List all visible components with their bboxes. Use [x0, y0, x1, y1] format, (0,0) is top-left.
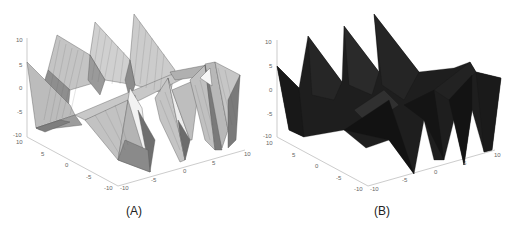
y-tick-labels-a: 10 5 0 -5 -10 — [16, 139, 113, 191]
svg-text:10: 10 — [16, 139, 23, 145]
svg-text:5: 5 — [41, 151, 45, 157]
svg-text:-5: -5 — [267, 111, 273, 117]
z-tick-labels-a: 10 5 0 -5 -10 — [13, 37, 23, 138]
svg-text:0: 0 — [269, 87, 273, 93]
svg-text:-5: -5 — [336, 175, 342, 181]
svg-text:-5: -5 — [17, 109, 23, 115]
svg-text:-5: -5 — [151, 177, 157, 183]
surface-plot-a: 10 5 0 -5 -10 10 5 0 -5 -10 -10 -5 0 5 1… — [0, 0, 254, 228]
svg-text:10: 10 — [494, 152, 501, 158]
panel-a: 10 5 0 -5 -10 10 5 0 -5 -10 -10 -5 0 5 1… — [0, 0, 254, 228]
panel-b: 10 5 0 -5 -10 10 5 0 -5 -10 -10 -5 0 5 1… — [254, 0, 508, 228]
surface-b — [277, 14, 501, 174]
svg-text:10: 10 — [266, 140, 273, 146]
svg-text:0: 0 — [434, 169, 438, 175]
svg-text:10: 10 — [16, 37, 23, 43]
svg-text:-10: -10 — [354, 186, 363, 192]
svg-text:5: 5 — [19, 62, 23, 68]
svg-text:0: 0 — [19, 85, 23, 91]
y-tick-labels-b: 10 5 0 -5 -10 — [266, 140, 363, 192]
svg-text:5: 5 — [212, 160, 216, 166]
svg-text:-10: -10 — [13, 132, 22, 138]
svg-text:-5: -5 — [402, 177, 408, 183]
svg-text:0: 0 — [183, 168, 187, 174]
svg-text:5: 5 — [269, 63, 273, 69]
caption-a: (A) — [114, 204, 154, 218]
z-tick-labels-b: 10 5 0 -5 -10 — [263, 39, 273, 139]
svg-text:5: 5 — [292, 152, 296, 158]
svg-text:10: 10 — [244, 151, 251, 157]
svg-text:-10: -10 — [104, 185, 113, 191]
caption-b: (B) — [362, 204, 402, 218]
svg-text:-10: -10 — [370, 186, 379, 192]
surface-plot-b: 10 5 0 -5 -10 10 5 0 -5 -10 -10 -5 0 5 1… — [254, 0, 508, 228]
svg-text:0: 0 — [315, 163, 319, 169]
svg-text:10: 10 — [265, 39, 272, 45]
svg-text:-10: -10 — [263, 133, 272, 139]
surface-a — [27, 14, 240, 172]
svg-text:-5: -5 — [86, 174, 92, 180]
svg-text:-10: -10 — [120, 185, 129, 191]
svg-text:0: 0 — [65, 162, 69, 168]
